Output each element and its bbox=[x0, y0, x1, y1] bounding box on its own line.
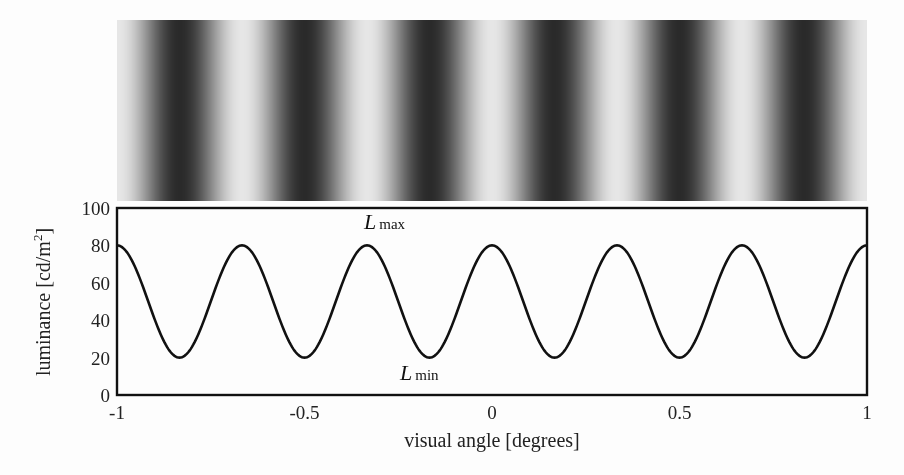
luminance-chart: 020406080100 -1-0.500.51 Lmax Lmin visua… bbox=[0, 0, 904, 475]
y-axis-ticks: 020406080100 bbox=[82, 198, 111, 406]
x-tick-label: -1 bbox=[109, 402, 125, 423]
y-tick-label: 40 bbox=[91, 310, 110, 331]
luminance-curve bbox=[117, 245, 867, 357]
y-tick-label: 60 bbox=[91, 273, 110, 294]
annotation-lmin: Lmin bbox=[399, 360, 439, 385]
x-axis-label: visual angle [degrees] bbox=[404, 429, 579, 452]
x-axis-ticks: -1-0.500.51 bbox=[109, 402, 872, 423]
x-tick-label: 0 bbox=[487, 402, 497, 423]
x-tick-label: -0.5 bbox=[289, 402, 319, 423]
x-tick-label: 1 bbox=[862, 402, 872, 423]
plot-frame bbox=[117, 208, 867, 395]
annotation-lmax: Lmax bbox=[363, 209, 406, 234]
y-tick-label: 80 bbox=[91, 235, 110, 256]
y-tick-label: 100 bbox=[82, 198, 111, 219]
x-tick-label: 0.5 bbox=[668, 402, 692, 423]
y-axis-label: luminance [cd/m2] bbox=[30, 228, 54, 376]
y-tick-label: 20 bbox=[91, 348, 110, 369]
